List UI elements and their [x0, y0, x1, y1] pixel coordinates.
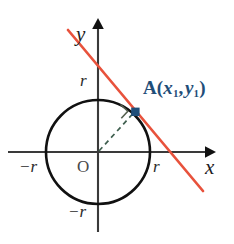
geometry-figure: y x r −r −r r O A(x1, y1): [0, 0, 234, 244]
point-a-marker: [131, 108, 139, 116]
point-a-label: A(x1, y1): [143, 78, 206, 99]
point-a-name: A: [143, 77, 157, 98]
y-axis-tick-label-r: r: [80, 72, 87, 89]
x-axis-label: x: [205, 157, 214, 178]
point-a-paren-close: ): [199, 77, 205, 98]
point-a-comma: ,: [178, 77, 183, 98]
y-axis-label: y: [76, 24, 85, 45]
origin-label: O: [77, 158, 89, 175]
point-a-y-var: y: [185, 77, 194, 98]
x-axis-tick-label-negative-r: −r: [19, 158, 37, 175]
y-axis-tick-label-negative-r: −r: [68, 203, 86, 220]
figure-canvas: [0, 0, 234, 244]
radius-dashed-line: [99, 113, 134, 151]
x-axis-tick-label-r: r: [153, 158, 160, 175]
point-a-x-var: x: [163, 77, 173, 98]
y-axis-arrowhead: [92, 18, 104, 29]
